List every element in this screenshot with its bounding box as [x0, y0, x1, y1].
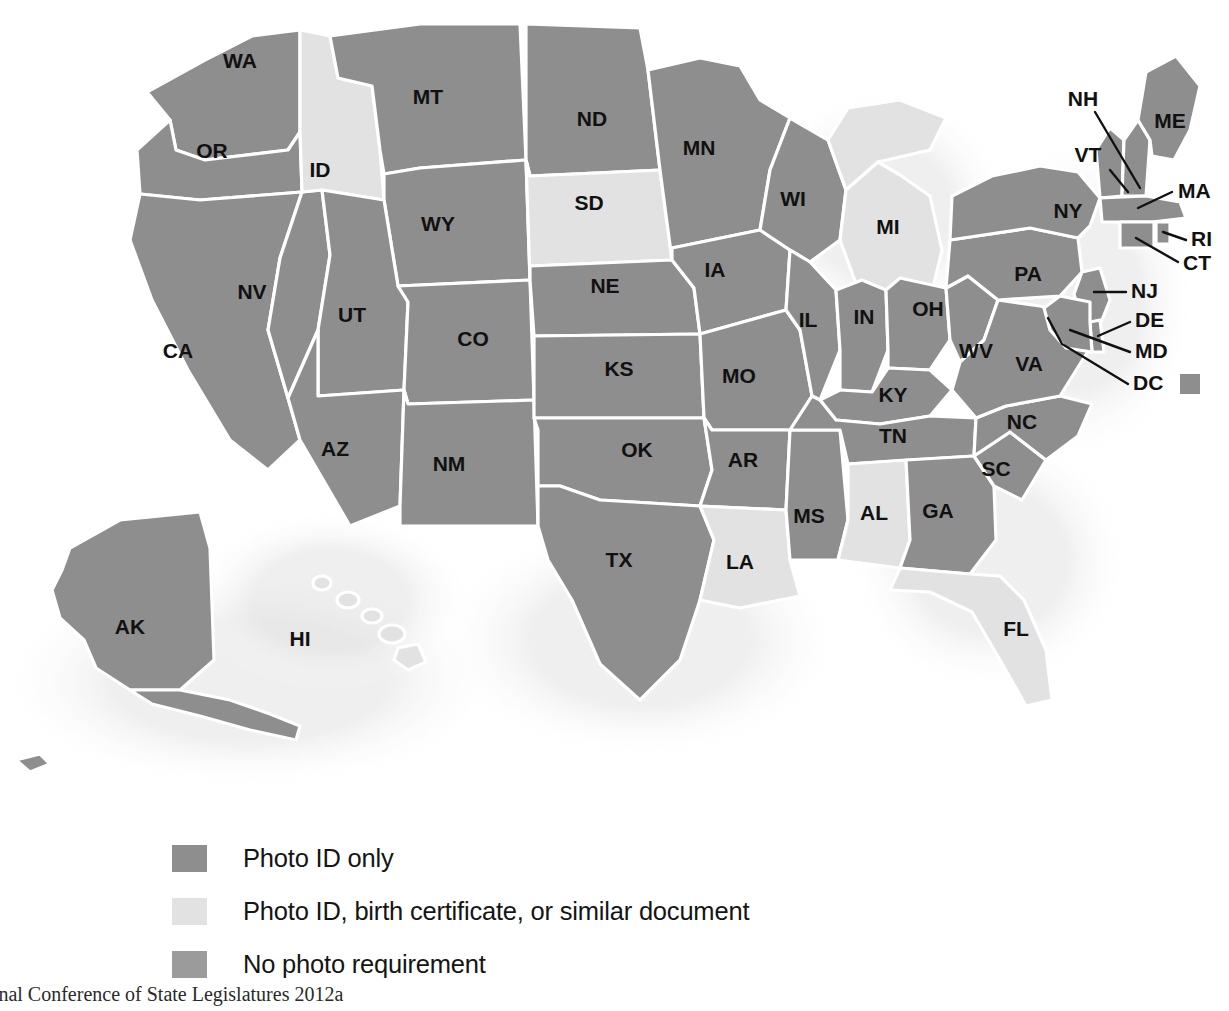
label-PA: PA: [1014, 262, 1042, 285]
label-DC: DC: [1133, 371, 1163, 394]
label-VA: VA: [1015, 352, 1043, 375]
label-ND: ND: [577, 107, 607, 130]
state-WY[interactable]: [384, 160, 530, 286]
label-CA: CA: [163, 339, 193, 362]
label-MN: MN: [683, 136, 716, 159]
state-ND[interactable]: [526, 24, 660, 176]
state-AK-isl[interactable]: [16, 754, 50, 772]
state-MO[interactable]: [700, 310, 812, 430]
label-CT: CT: [1183, 251, 1211, 274]
state-IN[interactable]: [836, 280, 888, 392]
label-MT: MT: [413, 85, 443, 108]
legend-label-photo-id-or-document: Photo ID, birth certificate, or similar …: [243, 897, 749, 926]
label-OH: OH: [912, 297, 944, 320]
label-GA: GA: [922, 499, 954, 522]
label-NJ: NJ: [1131, 279, 1158, 302]
label-CO: CO: [457, 327, 489, 350]
label-KS: KS: [604, 357, 633, 380]
label-IN: IN: [854, 305, 875, 328]
label-DE: DE: [1135, 308, 1164, 331]
label-MD: MD: [1135, 339, 1168, 362]
label-WV: WV: [959, 339, 993, 362]
legend-swatch-photo-id-only: [172, 845, 207, 872]
label-KY: KY: [878, 383, 907, 406]
us-map-svg[interactable]: WA OR CA NV ID MT WY UT AZ CO NM ND SD N…: [0, 0, 1229, 800]
label-UT: UT: [338, 303, 366, 326]
label-WI: WI: [780, 187, 806, 210]
label-HI: HI: [290, 627, 311, 650]
label-ID: ID: [310, 158, 331, 181]
label-MA: MA: [1178, 179, 1211, 202]
label-ME: ME: [1154, 109, 1186, 132]
choropleth-figure: WA OR CA NV ID MT WY UT AZ CO NM ND SD N…: [0, 0, 1229, 1011]
label-TN: TN: [879, 424, 907, 447]
label-WA: WA: [223, 49, 257, 72]
label-SD: SD: [574, 191, 603, 214]
legend-swatch-photo-id-or-document: [172, 898, 207, 925]
legend-label-no-photo-requirement: No photo requirement: [243, 950, 486, 979]
label-RI: RI: [1191, 227, 1212, 250]
label-NE: NE: [590, 274, 619, 297]
dc-swatch: [1180, 374, 1200, 394]
label-NV: NV: [237, 280, 266, 303]
us-map-container: WA OR CA NV ID MT WY UT AZ CO NM ND SD N…: [0, 0, 1229, 800]
legend-item-photo-id-or-document[interactable]: Photo ID, birth certificate, or similar …: [172, 885, 992, 938]
label-AK: AK: [115, 615, 145, 638]
label-SC: SC: [981, 457, 1010, 480]
label-OK: OK: [621, 438, 653, 461]
state-MA[interactable]: [1100, 196, 1186, 222]
label-AR: AR: [728, 448, 758, 471]
label-FL: FL: [1003, 617, 1029, 640]
legend-swatch-no-photo-requirement: [172, 951, 207, 978]
state-NM[interactable]: [400, 390, 538, 526]
label-NM: NM: [433, 452, 466, 475]
source-caption: National Conference of State Legislature…: [0, 983, 594, 1006]
label-WY: WY: [421, 212, 455, 235]
label-LA: LA: [726, 550, 754, 573]
label-IA: IA: [705, 258, 726, 281]
label-NC: NC: [1007, 410, 1037, 433]
label-NY: NY: [1053, 199, 1082, 222]
state-NE[interactable]: [530, 260, 700, 336]
label-IL: IL: [799, 308, 818, 331]
label-OR: OR: [196, 139, 228, 162]
state-MS[interactable]: [786, 430, 848, 560]
label-TX: TX: [606, 548, 633, 571]
label-MI: MI: [876, 215, 899, 238]
label-NH: NH: [1068, 87, 1098, 110]
legend-item-photo-id-only[interactable]: Photo ID only: [172, 832, 992, 885]
state-OH[interactable]: [886, 278, 950, 370]
label-MO: MO: [722, 364, 756, 387]
label-VT: VT: [1075, 143, 1102, 166]
label-MS: MS: [793, 504, 825, 527]
label-AZ: AZ: [321, 437, 349, 460]
legend: Photo ID only Photo ID, birth certificat…: [172, 832, 992, 991]
legend-label-photo-id-only: Photo ID only: [243, 844, 394, 873]
states-layer[interactable]: [16, 24, 1200, 772]
label-AL: AL: [860, 501, 888, 524]
